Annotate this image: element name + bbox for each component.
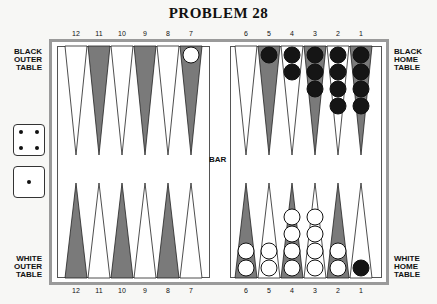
point-8-top[interactable]	[157, 46, 179, 155]
black-checker[interactable]	[330, 47, 346, 63]
point-9-top[interactable]	[134, 46, 156, 155]
board-points-layer	[0, 0, 437, 304]
black-checker[interactable]	[330, 64, 346, 80]
white-checker[interactable]	[307, 260, 323, 276]
point-6-top[interactable]	[235, 46, 257, 155]
black-checker[interactable]	[284, 47, 300, 63]
white-checker[interactable]	[238, 243, 254, 259]
black-checker[interactable]	[261, 47, 277, 63]
die-pip	[19, 146, 23, 150]
point-10-bottom[interactable]	[111, 183, 133, 278]
white-checker[interactable]	[330, 243, 346, 259]
die-pip	[35, 146, 39, 150]
black-checker[interactable]	[353, 98, 369, 114]
bottom-points	[65, 183, 372, 278]
white-checker[interactable]	[284, 260, 300, 276]
die-four	[13, 124, 45, 156]
black-checker[interactable]	[353, 260, 369, 276]
die-pip	[35, 130, 39, 134]
point-9-bottom[interactable]	[134, 183, 156, 278]
black-checker[interactable]	[307, 47, 323, 63]
white-checker[interactable]	[183, 47, 199, 63]
point-10-top[interactable]	[111, 46, 133, 155]
top-points	[65, 46, 372, 155]
white-checker[interactable]	[307, 243, 323, 259]
white-checker[interactable]	[238, 260, 254, 276]
white-checker[interactable]	[284, 226, 300, 242]
point-7-bottom[interactable]	[180, 183, 202, 278]
black-checker[interactable]	[330, 98, 346, 114]
bottom-checkers	[238, 209, 369, 276]
white-checker[interactable]	[261, 260, 277, 276]
black-checker[interactable]	[284, 64, 300, 80]
white-checker[interactable]	[261, 243, 277, 259]
black-checker[interactable]	[307, 64, 323, 80]
point-8-bottom[interactable]	[157, 183, 179, 278]
die-pip	[19, 130, 23, 134]
die-one	[13, 166, 45, 198]
point-12-bottom[interactable]	[65, 183, 87, 278]
die-pip	[27, 180, 31, 184]
point-12-top[interactable]	[65, 46, 87, 155]
white-checker[interactable]	[284, 209, 300, 225]
point-11-top[interactable]	[88, 46, 110, 155]
black-checker[interactable]	[353, 81, 369, 97]
white-checker[interactable]	[284, 243, 300, 259]
white-checker[interactable]	[307, 226, 323, 242]
white-checker[interactable]	[307, 209, 323, 225]
white-checker[interactable]	[330, 260, 346, 276]
point-11-bottom[interactable]	[88, 183, 110, 278]
black-checker[interactable]	[353, 47, 369, 63]
black-checker[interactable]	[330, 81, 346, 97]
black-checker[interactable]	[353, 64, 369, 80]
black-checker[interactable]	[307, 81, 323, 97]
